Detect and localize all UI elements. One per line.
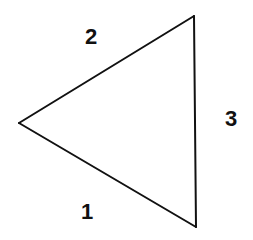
- triangle-edge-3: [194, 16, 196, 227]
- edge-label-3: 3: [225, 108, 237, 130]
- triangle-svg: [0, 0, 253, 240]
- edge-label-1: 1: [81, 201, 93, 223]
- edge-label-2: 2: [85, 26, 97, 48]
- triangle-edge-1: [19, 123, 196, 227]
- triangle-edge-2: [19, 16, 194, 123]
- triangle-diagram: 2 3 1: [0, 0, 253, 240]
